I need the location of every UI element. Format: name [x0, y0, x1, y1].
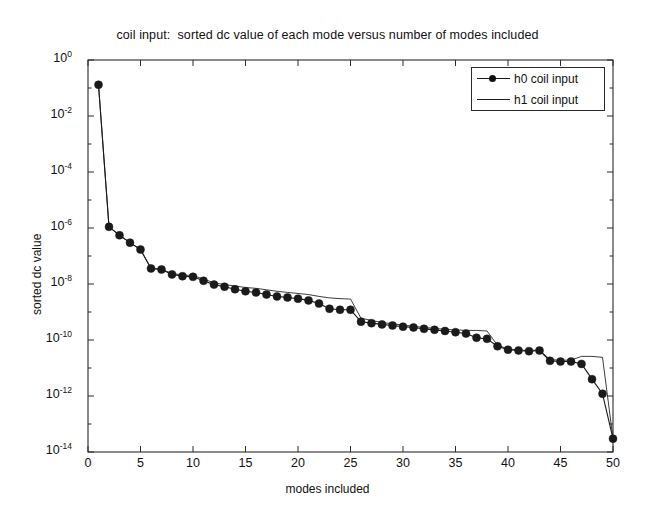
data-point-marker	[420, 325, 428, 333]
series-line-h1	[99, 85, 614, 439]
data-point-marker	[389, 321, 397, 329]
data-point-marker	[252, 288, 260, 296]
legend: h0 coil input h1 coil input	[471, 67, 605, 111]
data-point-marker	[273, 292, 281, 300]
data-point-marker	[315, 300, 323, 308]
data-point-marker	[95, 81, 103, 89]
data-point-marker	[137, 246, 145, 254]
data-point-marker	[263, 291, 271, 299]
data-point-marker	[200, 277, 208, 285]
data-point-marker	[116, 231, 124, 239]
legend-line-icon	[472, 90, 514, 110]
data-point-marker	[525, 347, 533, 355]
data-point-marker	[441, 327, 449, 335]
data-point-marker	[326, 305, 334, 313]
data-point-marker	[221, 283, 229, 291]
data-point-marker	[494, 342, 502, 350]
data-point-marker	[473, 334, 481, 342]
data-point-marker	[504, 346, 512, 354]
data-point-marker	[546, 357, 554, 365]
legend-entry-h0: h0 coil input	[472, 68, 606, 90]
legend-label-h0: h0 coil input	[514, 72, 578, 86]
legend-marker-line-icon	[472, 69, 514, 89]
data-point-marker	[462, 330, 470, 338]
data-point-marker	[147, 264, 155, 272]
series-line-h0	[99, 85, 614, 439]
data-point-marker	[210, 281, 218, 289]
figure-canvas: coil input: sorted dc value of each mode…	[0, 0, 655, 520]
data-point-marker	[399, 323, 407, 331]
data-point-marker	[294, 295, 302, 303]
data-point-marker	[588, 375, 596, 383]
data-point-marker	[179, 272, 187, 280]
data-point-marker	[336, 306, 344, 314]
data-point-marker	[168, 270, 176, 278]
data-point-marker	[452, 328, 460, 336]
data-point-marker	[567, 358, 575, 366]
data-point-marker	[305, 296, 313, 304]
data-point-marker	[515, 347, 523, 355]
data-point-marker	[410, 323, 418, 331]
data-point-marker	[599, 390, 607, 398]
legend-label-h1: h1 coil input	[514, 93, 578, 107]
data-point-marker	[483, 335, 491, 343]
data-point-marker	[126, 239, 134, 247]
data-point-marker	[557, 358, 565, 366]
data-point-marker	[578, 360, 586, 368]
data-point-marker	[609, 435, 617, 443]
data-point-marker	[284, 293, 292, 301]
data-point-marker	[536, 347, 544, 355]
data-point-marker	[378, 320, 386, 328]
legend-entry-h1: h1 coil input	[472, 89, 606, 111]
data-point-marker	[347, 306, 355, 314]
data-point-marker	[431, 326, 439, 334]
data-point-marker	[158, 265, 166, 273]
data-point-marker	[242, 287, 250, 295]
data-point-marker	[357, 318, 365, 326]
data-point-marker	[231, 285, 239, 293]
axes-frame	[88, 60, 613, 452]
data-point-marker	[105, 223, 113, 231]
data-point-marker	[368, 319, 376, 327]
data-point-marker	[189, 273, 197, 281]
